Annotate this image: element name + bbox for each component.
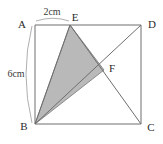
diagonal-BD-line	[35, 25, 141, 124]
vertex-label-C: C	[147, 121, 154, 133]
vertex-label-D: D	[148, 18, 156, 30]
dimension-arc-left	[26, 26, 32, 123]
shaded-triangle-BEF	[35, 25, 104, 124]
dimension-arc-top	[36, 18, 69, 21]
geometry-figure: A D B C E F 2cm 6cm	[0, 0, 163, 144]
vertex-label-E: E	[72, 11, 79, 23]
dimension-label-2cm: 2cm	[43, 6, 60, 17]
vertex-label-F: F	[109, 62, 115, 74]
vertex-label-B: B	[20, 120, 27, 132]
dimension-label-6cm: 6cm	[7, 68, 24, 79]
vertex-label-A: A	[18, 18, 26, 30]
